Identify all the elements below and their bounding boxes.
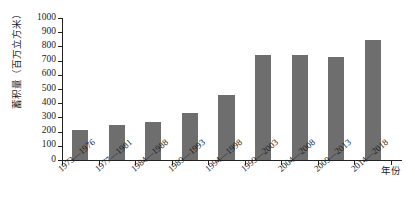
y-axis-tick-label: 1000 bbox=[37, 12, 56, 23]
y-axis-tick-mark bbox=[58, 61, 63, 62]
y-axis-tick-label: 400 bbox=[42, 97, 56, 108]
y-axis-tick-mark bbox=[58, 146, 63, 147]
y-axis-tick-mark bbox=[58, 46, 63, 47]
x-axis-tick-labels: 1973—19761977—19811984—19881989—19931994… bbox=[62, 166, 415, 221]
y-axis-tick-mark bbox=[58, 89, 63, 90]
y-axis-tick-label: 700 bbox=[42, 54, 56, 65]
plot-area: 01002003004005006007008009001000 bbox=[62, 18, 402, 161]
y-axis-tick-mark bbox=[58, 75, 63, 76]
x-axis-title: 年份 bbox=[381, 166, 401, 177]
y-axis-tick-mark bbox=[58, 103, 63, 104]
y-axis-tick-mark bbox=[58, 117, 63, 118]
y-axis-tick-label: 800 bbox=[42, 40, 56, 51]
y-axis-tick-label: 0 bbox=[51, 154, 56, 165]
y-axis-tick-mark bbox=[58, 32, 63, 33]
y-axis-tick-mark bbox=[58, 18, 63, 19]
y-axis-tick-label: 200 bbox=[42, 125, 56, 136]
y-axis-tick-mark bbox=[58, 132, 63, 133]
y-axis-tick-label: 100 bbox=[42, 139, 56, 150]
y-axis-tick-label: 300 bbox=[42, 111, 56, 122]
y-axis-tick-label: 900 bbox=[42, 26, 56, 37]
bar-chart: 蓄积量（百万立方米） 01002003004005006007008009001… bbox=[0, 0, 415, 221]
y-axis-title: 蓄积量（百万立方米） bbox=[12, 0, 23, 124]
x-axis-tick-mark bbox=[391, 160, 392, 165]
y-axis-tick-label: 600 bbox=[42, 68, 56, 79]
y-axis-tick-label: 500 bbox=[42, 83, 56, 94]
